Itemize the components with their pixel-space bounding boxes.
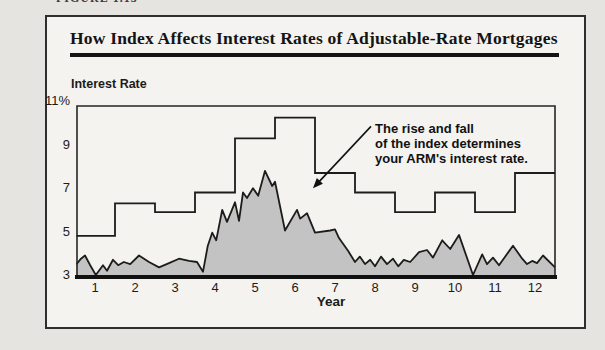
x-tick-label: 12	[528, 280, 542, 295]
x-tick-label: 7	[331, 280, 338, 295]
x-tick-label: 3	[171, 280, 178, 295]
figure-title: How Index Affects Interest Rates of Adju…	[70, 28, 560, 49]
y-tick-label: 7	[63, 180, 70, 195]
page: { "figure": { "label": "FIGURE 1.13", "t…	[0, 0, 605, 350]
x-tick-label: 4	[211, 280, 218, 295]
y-tick-label: 3	[63, 267, 70, 282]
y-tick-label: 11%	[45, 93, 70, 108]
x-tick-label: 11	[488, 280, 502, 295]
x-tick-label: 10	[448, 280, 462, 295]
y-tick-label: 9	[63, 137, 70, 152]
annotation-text: The rise and fall of the index determine…	[375, 121, 528, 166]
x-tick-label: 6	[291, 280, 298, 295]
x-axis-title: Year	[317, 294, 346, 309]
x-tick-label: 2	[131, 280, 138, 295]
x-tick-label: 1	[91, 280, 98, 295]
annotation-line-2: of the index determines	[375, 136, 528, 151]
title-rule	[70, 53, 559, 57]
annotation-arrow-line	[318, 126, 371, 182]
x-tick-label: 9	[411, 280, 418, 295]
x-tick-label: 8	[371, 280, 378, 295]
y-tick-label: 5	[63, 224, 70, 239]
x-tick-label: 5	[251, 280, 258, 295]
annotation-line-3: your ARM's interest rate.	[375, 151, 528, 166]
annotation-line-1: The rise and fall	[375, 121, 528, 136]
y-axis-title: Interest Rate	[71, 77, 147, 91]
